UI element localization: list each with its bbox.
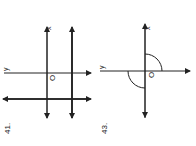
arc-lower	[128, 71, 145, 88]
y-label: y	[98, 65, 106, 69]
figure-43: x y O 43.	[98, 24, 190, 134]
y-label: y	[2, 67, 10, 71]
origin-label: O	[48, 75, 57, 81]
figure-41: x y O 41.	[2, 26, 91, 134]
origin-label: O	[147, 72, 156, 78]
problem-number: 41.	[3, 123, 12, 134]
arc-upper	[145, 54, 162, 71]
figure-page: x y O 41. x y O 43.	[0, 0, 196, 146]
problem-number: 43.	[100, 123, 109, 134]
x-label: x	[144, 26, 151, 30]
x-label: x	[45, 26, 52, 30]
